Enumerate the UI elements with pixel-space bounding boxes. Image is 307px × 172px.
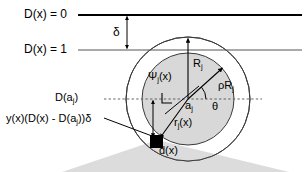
label-psi-tail: (x) <box>159 70 172 82</box>
diagram-graphics <box>0 0 307 172</box>
label-d-of-aj-head: D(a <box>55 91 73 103</box>
label-rj-of-x: rj(x) <box>174 117 192 129</box>
figure-canvas: D(x) = 0 D(x) = 1 δ D(aj) y(x)(D(x) - D(… <box>0 0 307 172</box>
label-offset-expression-head: y(x)(D(x) - D(a <box>6 112 76 124</box>
label-d-of-aj-tail: ) <box>74 91 78 103</box>
label-theta: θ <box>212 101 218 112</box>
label-center-aj: aj <box>185 100 193 112</box>
label-radius-rho-Rj-head: ρR <box>218 79 232 91</box>
label-psi-j-of-x: Ψj(x) <box>148 71 172 83</box>
label-d-of-aj: D(aj) <box>55 92 78 104</box>
label-d-equals-zero: D(x) = 0 <box>24 8 67 20</box>
label-radius-rho-Rj: ρRj <box>218 80 234 92</box>
label-radius-Rj-subscript: j <box>201 62 203 71</box>
label-offset-expression-tail: ))δ <box>78 112 91 124</box>
label-offset-expression: y(x)(D(x) - D(aj))δ <box>6 113 91 125</box>
label-radius-rho-Rj-subscript: j <box>232 84 234 93</box>
label-d-of-x-point: d(x) <box>159 145 178 156</box>
label-delta: δ <box>113 26 120 38</box>
label-radius-Rj: Rj <box>193 58 203 70</box>
label-d-equals-one: D(x) = 1 <box>24 43 67 55</box>
label-psi-head: Ψ <box>148 70 157 82</box>
label-rj-of-x-tail: (x) <box>179 116 192 128</box>
label-center-aj-subscript: j <box>191 104 193 113</box>
label-radius-Rj-head: R <box>193 57 201 69</box>
